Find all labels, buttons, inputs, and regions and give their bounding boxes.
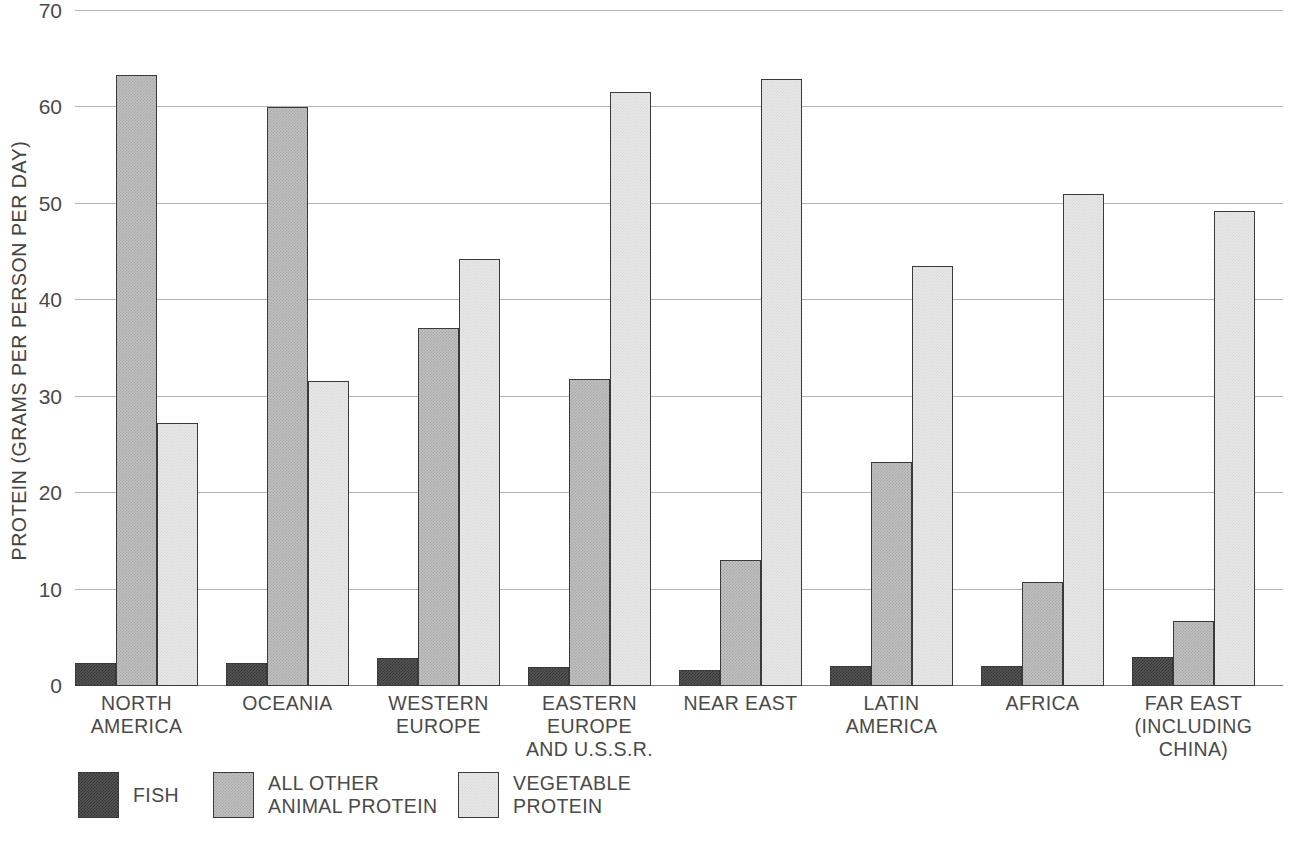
category-label: NEAR EAST (665, 692, 816, 715)
legend-item-vegetable-protein[interactable]: VEGETABLE PROTEIN (458, 772, 631, 818)
bar-animal-protein[interactable] (116, 75, 157, 686)
bar-vegetable-protein[interactable] (459, 259, 500, 686)
y-tick-label-50: 50 (2, 192, 62, 216)
bar-animal-protein[interactable] (871, 462, 912, 686)
bar-group (528, 11, 651, 686)
y-tick-label-30: 30 (2, 385, 62, 409)
y-tick-label-40: 40 (2, 288, 62, 312)
y-axis-tick-labels: 010203040506070 (0, 11, 62, 686)
y-tick-label-60: 60 (2, 95, 62, 119)
bar-vegetable-protein[interactable] (1063, 194, 1104, 686)
bar-fish[interactable] (830, 666, 871, 686)
legend-swatch-animal (213, 772, 254, 818)
y-tick-label-10: 10 (2, 578, 62, 602)
bar-vegetable-protein[interactable] (610, 92, 651, 686)
bar-group (679, 11, 802, 686)
bar-fish[interactable] (679, 670, 720, 686)
bar-fish[interactable] (75, 663, 116, 686)
category-label: NORTH AMERICA (61, 692, 212, 738)
bar-group (981, 11, 1104, 686)
bar-fish[interactable] (528, 667, 569, 686)
x-axis-category-labels: NORTH AMERICAOCEANIAWESTERN EUROPEEASTER… (75, 692, 1283, 762)
bar-group (75, 11, 198, 686)
bar-fish[interactable] (377, 658, 418, 686)
category-label: FAR EAST (INCLUDING CHINA) (1118, 692, 1269, 761)
bar-fish[interactable] (226, 663, 267, 686)
category-label: EASTERN EUROPE AND U.S.S.R. (514, 692, 665, 761)
legend-swatch-vegetable (458, 772, 499, 818)
legend-swatch-fish (78, 772, 119, 818)
bar-vegetable-protein[interactable] (308, 381, 349, 686)
y-tick-label-20: 20 (2, 481, 62, 505)
category-label: WESTERN EUROPE (363, 692, 514, 738)
bar-animal-protein[interactable] (720, 560, 761, 686)
legend-item-animal-protein[interactable]: ALL OTHER ANIMAL PROTEIN (213, 772, 438, 818)
chart-legend: FISHALL OTHER ANIMAL PROTEINVEGETABLE PR… (0, 772, 1304, 848)
bar-fish[interactable] (1132, 657, 1173, 686)
category-label: OCEANIA (212, 692, 363, 715)
bar-vegetable-protein[interactable] (157, 423, 198, 686)
bar-fish[interactable] (981, 666, 1022, 686)
bar-group (830, 11, 953, 686)
y-tick-label-70: 70 (2, 0, 62, 23)
legend-label: FISH (133, 784, 179, 807)
y-tick-label-0: 0 (2, 674, 62, 698)
bar-animal-protein[interactable] (1022, 582, 1063, 686)
protein-bar-chart: PROTEIN (GRAMS PER PERSON PER DAY) 01020… (0, 0, 1304, 848)
bar-animal-protein[interactable] (1173, 621, 1214, 686)
legend-label: ALL OTHER ANIMAL PROTEIN (268, 772, 438, 818)
bar-animal-protein[interactable] (569, 379, 610, 686)
bar-group (1132, 11, 1255, 686)
bar-group (377, 11, 500, 686)
category-label: AFRICA (967, 692, 1118, 715)
legend-item-fish[interactable]: FISH (78, 772, 179, 818)
plot-area (75, 11, 1283, 686)
bar-vegetable-protein[interactable] (761, 79, 802, 687)
bar-animal-protein[interactable] (418, 328, 459, 686)
bar-animal-protein[interactable] (267, 107, 308, 686)
legend-label: VEGETABLE PROTEIN (513, 772, 631, 818)
bar-vegetable-protein[interactable] (912, 266, 953, 686)
bar-vegetable-protein[interactable] (1214, 211, 1255, 686)
category-label: LATIN AMERICA (816, 692, 967, 738)
bar-group (226, 11, 349, 686)
